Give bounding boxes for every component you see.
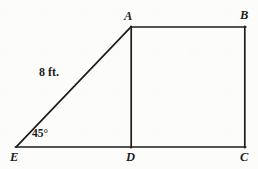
geometry-figure: A B C D E 8 ft. 45° bbox=[0, 0, 258, 169]
figure-canvas bbox=[0, 0, 258, 169]
vertex-label-b: B bbox=[240, 9, 248, 22]
vertex-label-c: C bbox=[240, 151, 248, 164]
vertex-label-d: D bbox=[126, 151, 135, 164]
angle-measure-label: 45° bbox=[32, 128, 48, 140]
vertex-label-a: A bbox=[124, 10, 132, 23]
side-length-label: 8 ft. bbox=[39, 66, 59, 78]
vertex-label-e: E bbox=[10, 151, 18, 164]
